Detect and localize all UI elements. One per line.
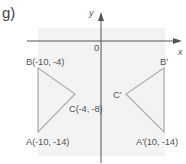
origin-label: 0 bbox=[94, 42, 99, 53]
point-b-prime-label: B' bbox=[160, 56, 168, 67]
point-a-prime-label: A'(10, -14) bbox=[136, 136, 178, 147]
point-b-label: B(-10, -4) bbox=[26, 56, 64, 67]
y-axis-arrow-icon bbox=[98, 12, 104, 21]
point-a-label: A(-10, -14) bbox=[26, 136, 69, 147]
point-c-prime-label: C' bbox=[113, 89, 121, 100]
y-axis-label: y bbox=[89, 8, 94, 18]
point-c-label: C(-4, -8) bbox=[69, 103, 103, 114]
x-axis-arrow-icon bbox=[173, 38, 182, 44]
x-axis-label: x bbox=[178, 47, 183, 57]
